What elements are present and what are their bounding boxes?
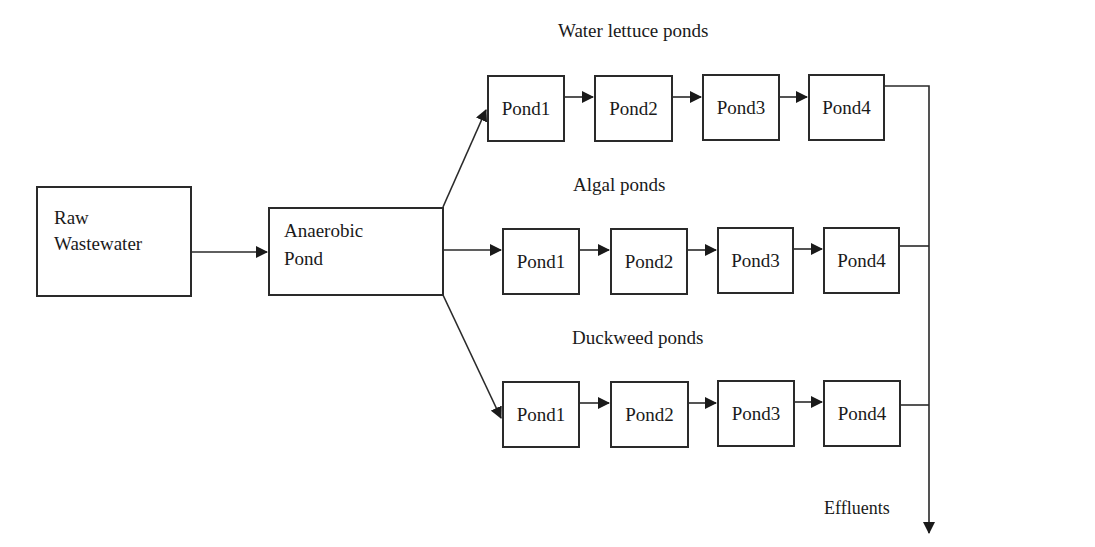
pond-label: Pond4 <box>825 402 899 426</box>
algal-pond-4: Pond4 <box>823 227 900 294</box>
pond-label: Pond3 <box>719 249 792 273</box>
duckweed-pond-4: Pond4 <box>823 380 901 447</box>
water-lettuce-pond-4: Pond4 <box>808 74 885 141</box>
algal-title: Algal ponds <box>573 174 665 196</box>
raw-wastewater-box: Raw Wastewater <box>36 186 192 297</box>
water-lettuce-pond-2: Pond2 <box>594 75 673 142</box>
algal-pond-2: Pond2 <box>610 228 688 295</box>
raw-wastewater-label-line2: Wastewater <box>54 232 142 256</box>
effluents-label: Effluents <box>824 498 890 519</box>
pond-label: Pond4 <box>810 96 883 120</box>
water-lettuce-title: Water lettuce ponds <box>558 20 708 42</box>
pond-label: Pond1 <box>504 403 578 427</box>
water-lettuce-pond-3: Pond3 <box>702 74 780 141</box>
algal-pond-3: Pond3 <box>717 227 794 294</box>
pond-label: Pond3 <box>704 96 778 120</box>
anaerobic-pond-label-line1: Anaerobic <box>284 219 363 243</box>
pond-label: Pond2 <box>612 403 687 427</box>
duckweed-title: Duckweed ponds <box>572 327 703 349</box>
pond-label: Pond1 <box>504 250 578 274</box>
anaerobic-pond-label-line2: Pond <box>284 247 323 271</box>
duckweed-pond-2: Pond2 <box>610 381 689 448</box>
raw-wastewater-label-line1: Raw <box>54 206 89 230</box>
pond-label: Pond2 <box>612 250 686 274</box>
algal-pond-1: Pond1 <box>502 228 580 295</box>
duckweed-pond-1: Pond1 <box>502 381 580 448</box>
pond-label: Pond4 <box>825 249 898 273</box>
anaerobic-pond-box: Anaerobic Pond <box>268 207 444 296</box>
pond-label: Pond1 <box>489 97 563 121</box>
water-lettuce-pond-1: Pond1 <box>487 75 565 142</box>
pond-label: Pond2 <box>596 97 671 121</box>
pond-label: Pond3 <box>719 402 793 426</box>
duckweed-pond-3: Pond3 <box>717 380 795 447</box>
